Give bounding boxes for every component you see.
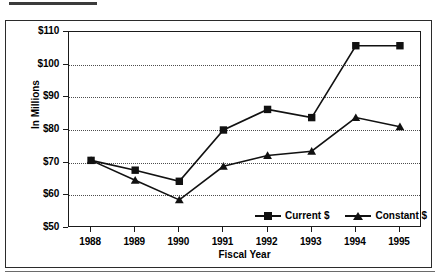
data-point-marker	[351, 113, 360, 121]
x-tick-label: 1995	[377, 236, 421, 247]
x-tick-label: 1989	[112, 236, 156, 247]
page-bottom-rule	[5, 271, 435, 272]
plot-area: Current $ Constant $	[68, 31, 421, 227]
x-axis-title: Fiscal Year	[68, 249, 421, 260]
figure-frame: In Millions $50$60$70$80$90$100$110 1988…	[5, 20, 432, 268]
data-point-marker	[264, 106, 271, 113]
y-tick-label: $100	[6, 58, 59, 69]
legend-item-constant: Constant $	[345, 210, 427, 221]
legend-label-constant: Constant $	[375, 210, 427, 221]
x-tick-label: 1993	[289, 236, 333, 247]
y-tick-label: $60	[6, 188, 59, 199]
square-marker-icon	[255, 210, 281, 221]
y-tick-label: $110	[6, 25, 59, 36]
y-tick-label: $80	[6, 123, 59, 134]
y-tick-label: $90	[6, 90, 59, 101]
series-line-constant	[91, 118, 400, 200]
x-tick-label: 1991	[200, 236, 244, 247]
line-chart: In Millions $50$60$70$80$90$100$110 1988…	[6, 21, 433, 269]
y-tick-label: $70	[6, 156, 59, 167]
data-point-marker	[220, 126, 227, 133]
series-layer	[69, 32, 422, 228]
x-tick-label: 1992	[245, 236, 289, 247]
legend-label-current: Current $	[285, 210, 329, 221]
y-tick-mark	[63, 227, 68, 228]
page-top-rule-artifact	[9, 2, 97, 5]
data-point-marker	[131, 166, 138, 173]
data-point-marker	[176, 178, 183, 185]
x-tick-label: 1994	[333, 236, 377, 247]
chart-legend: Current $ Constant $	[255, 210, 427, 221]
data-point-marker	[308, 114, 315, 121]
x-tick-label: 1988	[68, 236, 112, 247]
y-tick-label: $50	[6, 221, 59, 232]
triangle-marker-icon	[345, 210, 371, 221]
data-point-marker	[396, 42, 403, 49]
data-point-marker	[131, 176, 140, 184]
data-point-marker	[352, 42, 359, 49]
x-tick-label: 1990	[156, 236, 200, 247]
legend-item-current: Current $	[255, 210, 329, 221]
